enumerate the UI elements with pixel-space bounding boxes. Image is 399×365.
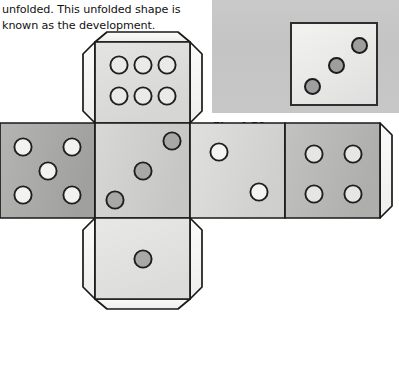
pip — [39, 162, 56, 179]
tab-bottom — [95, 299, 190, 309]
tab-right-edge — [380, 123, 392, 218]
pip — [158, 87, 175, 104]
pip — [158, 56, 175, 73]
pip — [250, 183, 267, 200]
pip — [163, 132, 180, 149]
body-line-1: unfolded. This unfolded shape is — [2, 2, 207, 18]
net-pips-one — [134, 250, 151, 267]
tab-top-left — [83, 42, 95, 123]
pip — [110, 56, 127, 73]
tab-top-right — [190, 42, 202, 123]
net-face-two — [190, 123, 285, 218]
pip — [134, 56, 151, 73]
pip — [134, 250, 151, 267]
pip — [14, 138, 31, 155]
pip — [63, 138, 80, 155]
net-face-six — [95, 42, 190, 123]
tab-bottom-right — [190, 218, 202, 299]
pip — [305, 185, 322, 202]
tab-bottom-left — [83, 218, 95, 299]
pip — [14, 186, 31, 203]
cube-development-net — [0, 28, 399, 365]
net-face-four — [285, 123, 380, 218]
pip — [134, 162, 151, 179]
page-root: unfolded. This unfolded shape is known a… — [0, 0, 399, 365]
pip — [134, 87, 151, 104]
pip — [344, 185, 361, 202]
pip — [110, 87, 127, 104]
pip — [210, 143, 227, 160]
pip — [106, 191, 123, 208]
pip — [344, 145, 361, 162]
pip — [305, 145, 322, 162]
net-svg — [0, 28, 399, 365]
tab-top — [95, 32, 190, 42]
pip — [63, 186, 80, 203]
